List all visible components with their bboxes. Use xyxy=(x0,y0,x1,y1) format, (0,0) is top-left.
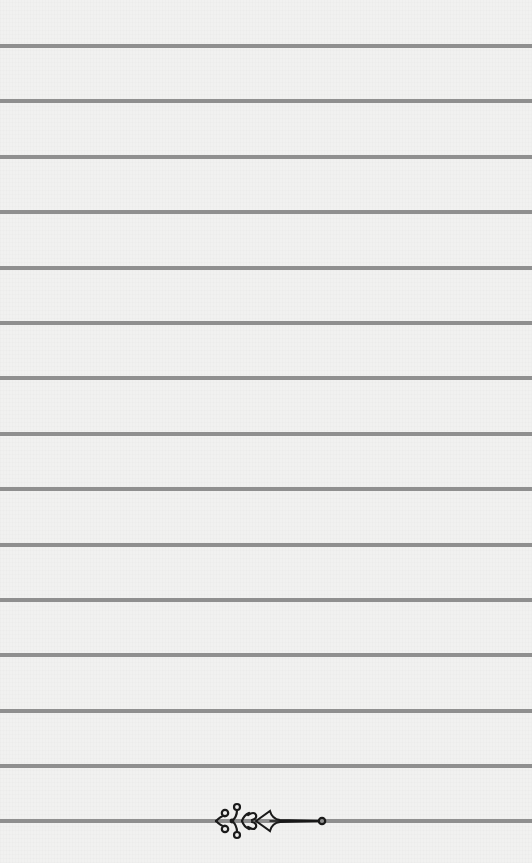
ruled-line xyxy=(0,653,532,657)
ruled-line xyxy=(0,99,532,103)
ruled-line xyxy=(0,210,532,214)
ruled-line xyxy=(0,709,532,713)
ruled-line xyxy=(0,543,532,547)
ruled-line xyxy=(0,266,532,270)
ruled-line xyxy=(0,376,532,380)
ruled-line xyxy=(0,155,532,159)
lined-paper xyxy=(0,0,532,863)
ruled-line xyxy=(0,44,532,48)
scroll-flourish-icon xyxy=(212,801,328,841)
ruled-line xyxy=(0,432,532,436)
ruled-line xyxy=(0,487,532,491)
ruled-line xyxy=(0,598,532,602)
ruled-line xyxy=(0,764,532,768)
ruled-line xyxy=(0,321,532,325)
